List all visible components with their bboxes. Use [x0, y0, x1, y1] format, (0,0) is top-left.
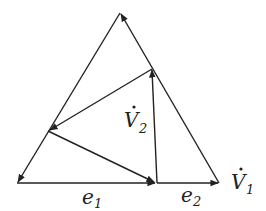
svg-text:1: 1: [246, 182, 254, 197]
svg-text:2: 2: [138, 121, 147, 136]
vector-right-side: [121, 14, 219, 183]
svg-text:2: 2: [192, 194, 201, 209]
vector-diagram: V 2 V 1 e 1 e 2: [0, 0, 266, 211]
label-e1: e 1: [82, 185, 102, 211]
svg-text:e: e: [82, 185, 94, 209]
label-v2: V 2: [124, 105, 147, 136]
svg-text:e: e: [181, 183, 193, 207]
label-v1: V 1: [231, 167, 254, 197]
vector-v2: [152, 70, 157, 183]
vector-inner-lower: [48, 131, 154, 182]
svg-text:1: 1: [94, 196, 102, 211]
label-e2: e 2: [181, 183, 201, 209]
